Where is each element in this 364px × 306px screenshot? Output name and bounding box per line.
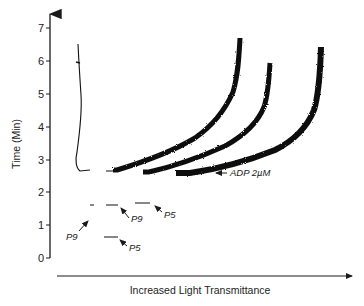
y-tick-label: 2	[38, 186, 44, 198]
y-tick-label: 5	[38, 88, 44, 100]
y-tick-label: 6	[38, 55, 44, 67]
annotations: P9 P9 P5 P5 ADP 2µM	[66, 167, 271, 253]
y-tick-label: 7	[38, 22, 44, 34]
y-axis-title: Time (Min)	[10, 119, 22, 169]
annotation-p5: P5	[129, 242, 141, 253]
trace-4	[176, 47, 321, 203]
annotation-p9: P9	[66, 231, 78, 242]
y-axis: 0 1 2 3 4 5 6 7 Time (Min)	[10, 14, 50, 264]
y-tick-label: 1	[38, 219, 44, 231]
y-tick-label: 0	[38, 252, 44, 264]
trace-1	[76, 44, 94, 228]
annotation-adp: ADP 2µM	[229, 167, 271, 178]
y-tick-label: 3	[38, 154, 44, 166]
y-tick-label: 4	[38, 121, 44, 133]
annotation-p5: P5	[164, 209, 176, 220]
chart-canvas: 0 1 2 3 4 5 6 7 Time (Min) Increased Lig…	[0, 0, 364, 306]
trace-3	[135, 63, 270, 210]
x-axis-title: Increased Light Transmittance	[130, 284, 271, 296]
x-axis: Increased Light Transmittance	[57, 276, 352, 296]
annotation-p9: P9	[131, 213, 143, 224]
